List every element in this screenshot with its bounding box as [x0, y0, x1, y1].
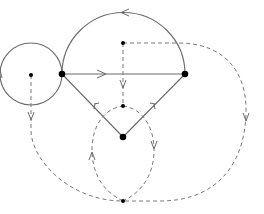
dual-edge-mid-right	[123, 106, 154, 201]
dual-vertex-loop	[29, 73, 33, 77]
vertex-b	[182, 71, 189, 78]
graph-diagram	[0, 0, 264, 214]
dual-vertex-top	[121, 41, 125, 45]
vertex-c	[120, 134, 127, 141]
vertex-a	[59, 71, 66, 78]
dual-vertex-mid	[121, 104, 125, 108]
dual-edge-loop-outer	[31, 75, 123, 201]
dual-vertex-bottom	[121, 199, 125, 203]
edge-c-a	[62, 74, 123, 137]
